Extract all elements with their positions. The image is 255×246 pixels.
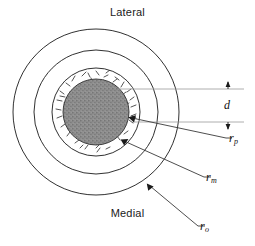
- label-ro: ro: [200, 219, 209, 234]
- label-lateral: Lateral: [0, 6, 255, 18]
- label-thickness-d-symbol: d: [224, 98, 230, 112]
- label-thickness-d: d: [224, 98, 230, 113]
- dimension-arrow-down-icon: [226, 124, 231, 130]
- dimension-arrow-up-icon: [226, 81, 231, 87]
- label-rp-subscript: p: [234, 137, 238, 146]
- label-rm-subscript: m: [211, 176, 217, 185]
- leader-line-ro: [150, 186, 198, 226]
- anatomical-cross-section-diagram: Lateral Medial d rp rm ro: [0, 0, 255, 246]
- label-rm-symbol: r: [206, 170, 211, 184]
- label-rp-symbol: r: [229, 131, 234, 145]
- arrowhead-ro-icon: [147, 183, 154, 190]
- label-ro-symbol: r: [200, 219, 205, 233]
- label-medial: Medial: [0, 207, 255, 219]
- label-rm: rm: [206, 170, 216, 185]
- label-rp: rp: [229, 131, 238, 146]
- label-ro-subscript: o: [205, 225, 209, 234]
